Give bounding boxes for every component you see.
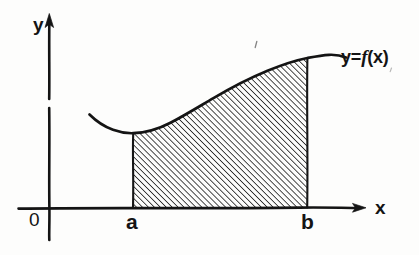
y-axis-label: y: [33, 15, 44, 34]
x-axis-label: x: [375, 198, 386, 217]
integral-area-diagram: [0, 0, 419, 255]
figure-canvas: y x 0 a b y=f(x): [0, 0, 419, 255]
x-axis-line: [19, 208, 361, 209]
origin-label: 0: [29, 210, 40, 229]
upper-bound-label-b: b: [301, 211, 314, 232]
stray-pencil-mark-upper: [255, 42, 257, 48]
curve-equation-label: y=f(x): [341, 47, 389, 66]
curve-label-prefix: y=: [341, 47, 361, 67]
stray-pencil-speck-right: [390, 68, 391, 72]
lower-bound-label-a: a: [126, 211, 138, 232]
curve-label-argument: (x): [367, 47, 388, 67]
